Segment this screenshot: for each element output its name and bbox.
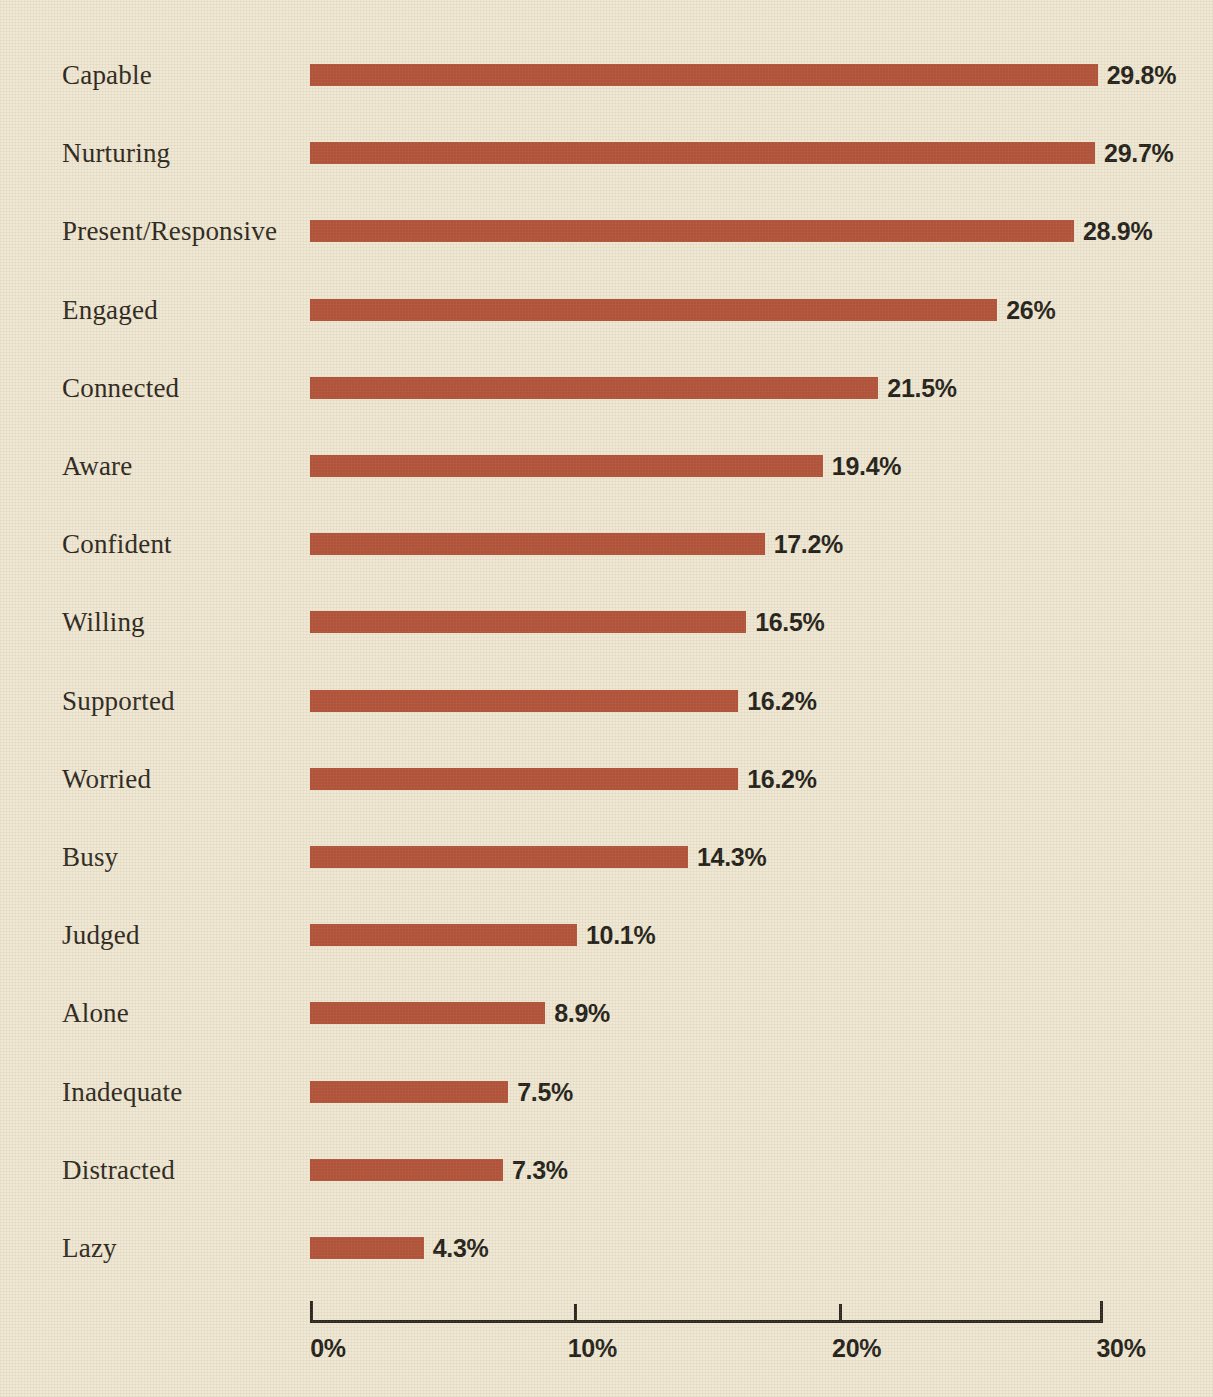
bar-value-label: 7.5%	[517, 1077, 573, 1106]
bar-track	[310, 768, 738, 790]
bar[interactable]	[310, 768, 738, 790]
bar-value-label: 16.2%	[747, 686, 816, 715]
x-axis-tick	[839, 1304, 842, 1323]
bar-value-label: 17.2%	[774, 530, 843, 559]
bar[interactable]	[310, 533, 765, 555]
bar-row: Worried16.2%	[0, 751, 1213, 807]
x-axis-tick-label: 0%	[310, 1334, 346, 1363]
x-axis-tick	[1100, 1301, 1103, 1323]
bar[interactable]	[310, 846, 688, 868]
x-axis: 0%10%20%30%	[0, 1296, 1213, 1396]
bar-row: Distracted7.3%	[0, 1142, 1213, 1198]
bar[interactable]	[310, 299, 997, 321]
x-axis-tick-label: 20%	[832, 1334, 881, 1363]
bar-value-label: 16.2%	[747, 764, 816, 793]
category-label: Judged	[62, 920, 140, 951]
bar[interactable]	[310, 377, 878, 399]
category-label: Engaged	[62, 294, 158, 325]
bar-value-label: 29.7%	[1104, 139, 1173, 168]
bar-row: Engaged26%	[0, 282, 1213, 338]
bar-track	[310, 1237, 424, 1259]
bar[interactable]	[310, 924, 577, 946]
bar-row: Aware19.4%	[0, 438, 1213, 494]
bar[interactable]	[310, 220, 1074, 242]
bar-value-label: 14.3%	[697, 843, 766, 872]
bar-track	[310, 1159, 503, 1181]
bar-track	[310, 924, 577, 946]
category-label: Supported	[62, 685, 175, 716]
bar[interactable]	[310, 1081, 508, 1103]
bar[interactable]	[310, 1237, 424, 1259]
bar-row: Present/Responsive28.9%	[0, 203, 1213, 259]
bar-value-label: 21.5%	[887, 373, 956, 402]
category-label: Distracted	[62, 1154, 175, 1185]
bar-track	[310, 533, 765, 555]
x-axis-tick-label: 10%	[568, 1334, 617, 1363]
bar-track	[310, 690, 738, 712]
bar-track	[310, 455, 823, 477]
category-label: Aware	[62, 451, 132, 482]
x-axis-tick-label: 30%	[1096, 1334, 1145, 1363]
category-label: Worried	[62, 763, 151, 794]
bar-value-label: 29.8%	[1107, 61, 1176, 90]
bar-value-label: 7.3%	[512, 1155, 568, 1184]
bar-row: Willing16.5%	[0, 594, 1213, 650]
bar-value-label: 8.9%	[554, 999, 610, 1028]
bar-track	[310, 846, 688, 868]
category-label: Connected	[62, 372, 179, 403]
bar-track	[310, 1081, 508, 1103]
bar[interactable]	[310, 1002, 545, 1024]
bar-track	[310, 611, 746, 633]
bar-row: Inadequate7.5%	[0, 1064, 1213, 1120]
bar-value-label: 16.5%	[755, 608, 824, 637]
bar[interactable]	[310, 64, 1098, 86]
bar-track	[310, 377, 878, 399]
category-label: Willing	[62, 607, 145, 638]
bar-value-label: 19.4%	[832, 452, 901, 481]
bar-value-label: 10.1%	[586, 921, 655, 950]
category-label: Capable	[62, 60, 152, 91]
bar-chart: Capable29.8%Nurturing29.7%Present/Respon…	[0, 0, 1213, 1397]
bar-track	[310, 1002, 545, 1024]
x-axis-line	[310, 1320, 1103, 1323]
bar-row: Lazy4.3%	[0, 1220, 1213, 1276]
bar-row: Connected21.5%	[0, 360, 1213, 416]
bar-row: Alone8.9%	[0, 985, 1213, 1041]
bar-row: Confident17.2%	[0, 516, 1213, 572]
bar-row: Supported16.2%	[0, 673, 1213, 729]
bar-track	[310, 142, 1095, 164]
bar[interactable]	[310, 455, 823, 477]
bar-row: Busy14.3%	[0, 829, 1213, 885]
bar[interactable]	[310, 611, 746, 633]
category-label: Nurturing	[62, 138, 170, 169]
bar[interactable]	[310, 690, 738, 712]
category-label: Present/Responsive	[62, 216, 277, 247]
bar-row: Judged10.1%	[0, 907, 1213, 963]
bar-track	[310, 299, 997, 321]
bar-row: Nurturing29.7%	[0, 125, 1213, 181]
bar[interactable]	[310, 1159, 503, 1181]
bar-value-label: 4.3%	[433, 1234, 489, 1263]
bar-value-label: 28.9%	[1083, 217, 1152, 246]
category-label: Busy	[62, 842, 118, 873]
bar-row: Capable29.8%	[0, 47, 1213, 103]
x-axis-tick	[310, 1301, 313, 1323]
category-label: Lazy	[62, 1233, 117, 1264]
bar-track	[310, 220, 1074, 242]
bar[interactable]	[310, 142, 1095, 164]
category-label: Alone	[62, 998, 129, 1029]
x-axis-tick	[574, 1304, 577, 1323]
bar-value-label: 26%	[1006, 295, 1055, 324]
category-label: Confident	[62, 529, 172, 560]
bar-track	[310, 64, 1098, 86]
category-label: Inadequate	[62, 1076, 182, 1107]
